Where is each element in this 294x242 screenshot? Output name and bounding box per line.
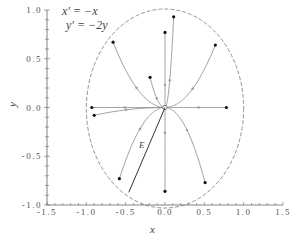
y-tick-label: 0.5: [26, 54, 42, 64]
x-tick-label: 1.5: [275, 207, 291, 217]
direction-marker-icon: [124, 106, 126, 108]
trajectory-10: [165, 108, 205, 183]
direction-marker-icon: [186, 129, 188, 131]
initial-point: [148, 76, 151, 79]
direction-marker-icon: [139, 128, 141, 130]
direction-marker-icon: [125, 109, 127, 111]
initial-point: [204, 181, 207, 184]
direction-marker-icon: [191, 88, 193, 90]
direction-marker-icon: [197, 106, 199, 108]
y-tick-label: -0.5: [22, 151, 42, 161]
trajectory-4: [150, 77, 165, 107]
trajectory-0: [165, 17, 174, 108]
x-tick-label: 0.0: [157, 207, 173, 217]
x-tick-label: 1.0: [236, 207, 252, 217]
trajectories: [90, 15, 228, 193]
annotation-line-e: [129, 108, 165, 193]
direction-marker-icon: [164, 132, 166, 134]
initial-point: [172, 15, 175, 18]
initial-point: [225, 106, 228, 109]
initial-point: [93, 114, 96, 117]
y-tick-label: 0.0: [26, 103, 42, 113]
initial-point: [214, 44, 217, 47]
x-tick-label: -1.0: [76, 207, 96, 217]
trajectory-3: [165, 45, 215, 107]
direction-marker-icon: [156, 97, 158, 99]
initial-point: [90, 106, 93, 109]
initial-point: [163, 190, 166, 193]
x-tick-label: 0.5: [196, 207, 212, 217]
tick-labels: -1.5-1.0-0.50.00.51.01.5-1.0-0.50.00.51.…: [22, 5, 291, 217]
direction-marker-icon: [169, 79, 171, 81]
initial-point: [163, 31, 166, 34]
direction-marker-icon: [135, 87, 137, 89]
initial-point: [118, 177, 121, 180]
direction-marker-icon: [164, 84, 166, 86]
equation-y: y′ = −2y: [65, 18, 108, 32]
y-tick-label: 1.0: [26, 5, 42, 15]
y-axis-title: y: [6, 102, 18, 108]
x-axis-title: x: [149, 223, 155, 235]
equation-x: x′ = −x: [61, 4, 98, 18]
phase-portrait-chart: -1.5-1.0-0.50.00.51.01.5-1.0-0.50.00.51.…: [0, 0, 294, 242]
x-tick-label: -0.5: [116, 207, 136, 217]
annotation-label-e: E: [138, 140, 145, 150]
initial-point: [111, 41, 114, 44]
y-tick-label: -1.0: [22, 200, 42, 210]
line-e: [129, 108, 165, 193]
